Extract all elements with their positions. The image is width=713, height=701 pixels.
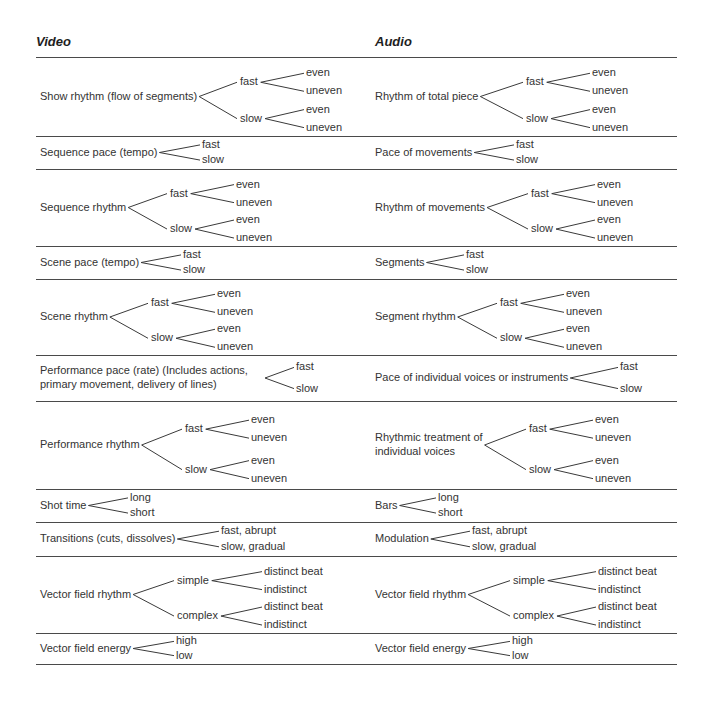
leaf-option: even [566,322,590,335]
leaf-option: short [130,506,154,519]
leaf-option: high [176,634,197,647]
leaf-option: fast [466,248,484,261]
leaf-option: even [592,66,616,79]
leaf-option: indistinct [264,618,307,631]
row-label: Vector field energy [40,642,131,655]
row-divider [36,57,677,58]
leaf-option: uneven [597,231,633,244]
leaf-option: distinct beat [598,600,657,613]
row-divider [36,522,677,523]
row-divider [36,489,677,490]
branch-option: fast [531,187,549,200]
leaf-option: fast [620,360,638,373]
leaf-option: uneven [306,121,342,134]
row-label: Pace of individual voices or instruments [375,371,568,384]
row-divider [36,279,677,280]
leaf-option: uneven [251,431,287,444]
branch-option: slow [531,222,553,235]
row-label: Shot time [40,499,86,512]
leaf-option: fast, abrupt [221,524,276,537]
branch-option: simple [177,574,209,587]
leaf-option: slow [296,382,318,395]
leaf-option: even [595,413,619,426]
row-label: Bars [375,499,398,512]
leaf-option: uneven [595,472,631,485]
leaf-option: distinct beat [264,600,323,613]
branch-option: slow [170,222,192,235]
audio-column-header: Audio [375,34,412,49]
row-label: Performance rhythm [40,438,140,451]
leaf-option: uneven [597,196,633,209]
row-label: Show rhythm (flow of segments) [40,90,197,103]
leaf-option: distinct beat [264,565,323,578]
leaf-option: even [595,454,619,467]
leaf-option: low [512,649,529,662]
branch-option: slow [500,331,522,344]
leaf-option: uneven [566,340,602,353]
row-divider [36,633,677,634]
leaf-option: long [438,491,459,504]
branch-option: slow [185,463,207,476]
row-label: individual voices [375,445,455,458]
row-label: Scene pace (tempo) [40,256,139,269]
leaf-option: slow [516,153,538,166]
row-label: Sequence pace (tempo) [40,146,157,159]
leaf-option: even [217,287,241,300]
row-label: Vector field rhythm [40,588,131,601]
row-label: Rhythm of movements [375,201,485,214]
branch-option: fast [170,187,188,200]
leaf-option: distinct beat [598,565,657,578]
leaf-option: long [130,491,151,504]
branch-option: slow [526,112,548,125]
leaf-option: even [217,322,241,335]
leaf-option: fast [183,248,201,261]
leaf-option: uneven [595,431,631,444]
leaf-option: fast [296,360,314,373]
row-label: Rhythm of total piece [375,90,478,103]
leaf-option: uneven [566,305,602,318]
leaf-option: slow [466,263,488,276]
leaf-option: uneven [592,121,628,134]
row-label: Pace of movements [375,146,472,159]
branch-option: fast [500,296,518,309]
row-divider [36,355,677,356]
leaf-option: even [306,66,330,79]
branch-option: fast [185,422,203,435]
leaf-option: uneven [592,84,628,97]
leaf-option: even [251,454,275,467]
row-label: Segment rhythm [375,310,456,323]
leaf-option: even [236,178,260,191]
leaf-option: indistinct [598,618,641,631]
row-label: Performance pace (rate) (Includes action… [40,364,248,377]
leaf-option: uneven [236,196,272,209]
branch-option: slow [529,463,551,476]
row-label: Segments [375,256,425,269]
leaf-option: uneven [217,340,253,353]
row-divider [36,664,677,665]
row-label: Modulation [375,532,429,545]
leaf-option: fast [516,138,534,151]
leaf-option: even [597,213,621,226]
leaf-option: slow [183,263,205,276]
leaf-option: uneven [217,305,253,318]
row-divider [36,136,677,137]
branch-option: complex [513,609,554,622]
branch-option: simple [513,574,545,587]
row-divider [36,169,677,170]
branch-option: fast [529,422,547,435]
row-label: primary movement, delivery of lines) [40,378,217,391]
leaf-option: even [566,287,590,300]
leaf-option: even [597,178,621,191]
leaf-option: fast, abrupt [472,524,527,537]
leaf-option: slow [202,153,224,166]
row-label: Sequence rhythm [40,201,126,214]
leaf-option: even [592,103,616,116]
branch-option: fast [151,296,169,309]
leaf-option: high [512,634,533,647]
branch-option: complex [177,609,218,622]
leaf-option: indistinct [264,583,307,596]
row-label: Rhythmic treatment of [375,431,483,444]
row-divider [36,401,677,402]
branch-option: fast [526,75,544,88]
row-label: Vector field energy [375,642,466,655]
